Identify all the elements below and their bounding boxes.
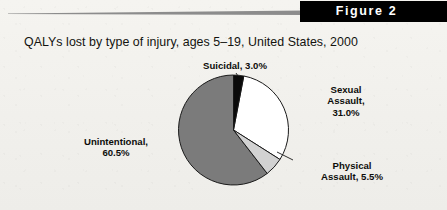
pie-slice-physical-assault xyxy=(234,130,280,173)
leader-line-physical-assault xyxy=(277,152,293,160)
pie-label-suicidal: Suicidal, 3.0% xyxy=(185,60,285,71)
pie-label-physical-assault-line1: Physical xyxy=(296,160,408,171)
pie-slice-suicidal xyxy=(234,75,244,130)
pie-slice-sexual-assault xyxy=(234,76,289,160)
pie-label-suicidal-text: Suicidal, 3.0% xyxy=(185,60,285,71)
pie-label-sexual-assault-line3: 31.0% xyxy=(304,107,388,118)
pie-label-sexual-assault-line2: Assault, xyxy=(304,95,388,106)
figure-page: Figure 2 QALYs lost by type of injury, a… xyxy=(0,0,447,210)
pie-label-sexual-assault-line1: Sexual xyxy=(304,84,388,95)
pie-label-unintentional-line1: Unintentional, xyxy=(62,136,170,147)
pie-label-physical-assault-line2: Assault, 5.5% xyxy=(296,171,408,182)
chart-title: QALYs lost by type of injury, ages 5–19,… xyxy=(24,35,358,49)
pie-label-physical-assault: Physical Assault, 5.5% xyxy=(296,160,408,183)
pie-label-unintentional: Unintentional, 60.5% xyxy=(62,136,170,159)
pie-label-sexual-assault: Sexual Assault, 31.0% xyxy=(304,84,388,118)
pie-slice-unintentional xyxy=(179,75,268,185)
figure-banner: Figure 2 xyxy=(300,1,447,22)
pie-label-unintentional-line2: 60.5% xyxy=(62,147,170,158)
header-rule-wedge xyxy=(8,11,304,15)
leader-line-suicidal xyxy=(236,73,238,76)
header-rule xyxy=(8,10,304,17)
figure-banner-label: Figure 2 xyxy=(336,5,397,18)
